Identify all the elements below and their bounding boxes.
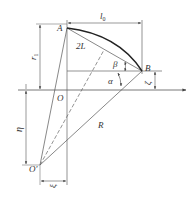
diagram-svg: A B O O′ l0 r1 ζ η ξ 2L R β α [0, 0, 194, 199]
dashed-bisector [40, 50, 104, 165]
eta-label-group: η [13, 127, 24, 132]
radius-R-label: R [97, 120, 104, 130]
beta-angle-arc [125, 62, 126, 71]
r1-label-group: r1 [28, 53, 39, 60]
point-B-label: B [145, 63, 151, 73]
alpha-angle-arc [118, 73, 121, 86]
l0-label: l0 [100, 11, 106, 22]
point-Oprime-label: O′ [29, 164, 38, 174]
point-O-label: O [57, 93, 64, 103]
point-A-label: A [56, 23, 63, 33]
zeta-label-group: ζ [143, 80, 153, 85]
eta-label: η [13, 127, 24, 132]
beta-label: β [112, 59, 118, 69]
blade-geometry-diagram: A B O O′ l0 r1 ζ η ξ 2L R β α [0, 0, 194, 199]
chord-2L-label: 2L [76, 41, 86, 51]
xi-label-group: ξ [48, 184, 58, 188]
alpha-label: α [108, 76, 113, 86]
zeta-label: ζ [143, 80, 153, 85]
radius-line-R [40, 71, 142, 165]
xi-label: ξ [48, 184, 58, 188]
r1-label: r1 [28, 53, 39, 60]
